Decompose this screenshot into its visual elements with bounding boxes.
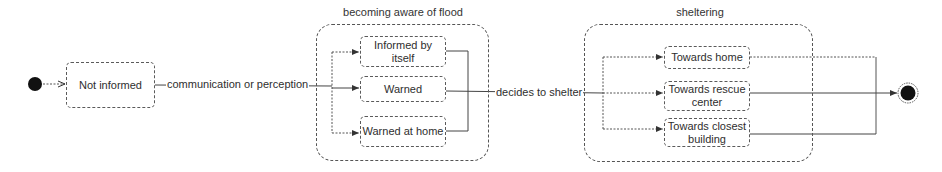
state-label: Towards home: [671, 51, 743, 64]
state-warned: Warned: [360, 76, 446, 102]
state-towards-home: Towards home: [664, 46, 750, 69]
state-diagram: Not informed communication or perception…: [0, 0, 942, 172]
state-label: Towards closest building: [665, 120, 749, 146]
state-towards-rescue-center: Towards rescue center: [664, 81, 750, 111]
initial-state-icon: [28, 77, 42, 91]
state-not-informed: Not informed: [66, 62, 155, 108]
state-label: Warned: [384, 83, 422, 96]
state-label: Informed by itself: [370, 39, 436, 65]
state-informed-by-itself: Informed by itself: [360, 36, 446, 67]
final-state-icon: [901, 86, 916, 101]
state-label: Not informed: [79, 79, 142, 92]
composite-title-aware: becoming aware of flood: [316, 6, 490, 19]
transition-label-communication: communication or perception: [166, 78, 309, 91]
state-label: Towards rescue center: [667, 83, 747, 109]
state-label: Warned at home: [363, 125, 444, 138]
state-towards-closest-building: Towards closest building: [664, 118, 750, 147]
transition-label-decides: decides to shelter: [495, 86, 583, 99]
composite-title-sheltering: sheltering: [640, 6, 760, 19]
state-warned-at-home: Warned at home: [360, 116, 446, 147]
